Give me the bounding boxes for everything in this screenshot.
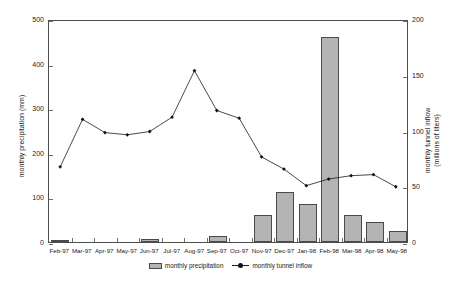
inflow-point-mar-98: [349, 174, 353, 178]
legend-item-precipitation: monthly precipitation: [149, 262, 224, 269]
x-tickmark: [229, 238, 230, 242]
x-tickmark: [72, 238, 73, 242]
inflow-point-may-97: [125, 133, 129, 137]
x-tickmark: [319, 238, 320, 242]
inflow-point-feb-98: [327, 177, 331, 181]
y-right-ticklabel-50: 50: [412, 183, 442, 190]
inflow-point-may-98: [394, 185, 398, 189]
inflow-point-feb-97: [58, 165, 62, 169]
y-right-tickmark: [403, 133, 407, 134]
x-tickmark: [297, 238, 298, 242]
y-right-ticklabel-150: 150: [412, 72, 442, 79]
y-left-tickmark: [49, 66, 53, 67]
inflow-point-apr-97: [103, 131, 107, 135]
y-axis-left-title: monthly precipitation (mm): [18, 76, 26, 196]
y-left-tickmark: [49, 244, 53, 245]
y-left-tickmark: [49, 110, 53, 111]
y-left-ticklabel-500: 500: [14, 16, 44, 23]
y-left-tickmark: [49, 155, 53, 156]
inflow-markers: [58, 69, 397, 189]
x-tickmark: [342, 238, 343, 242]
chart-figure: monthly precipitation (mm) monthly tunne…: [0, 0, 461, 284]
y-left-tickmark: [49, 199, 53, 200]
y-right-ticklabel-0: 0: [412, 239, 442, 246]
x-tickmark: [139, 238, 140, 242]
legend-item-inflow: monthly tunnel inflow: [232, 262, 312, 269]
plot-area: [48, 20, 408, 243]
bar-swatch-icon: [149, 263, 162, 269]
x-tickmark: [364, 238, 365, 242]
y-right-tickmark: [403, 188, 407, 189]
inflow-point-nov-97: [260, 155, 264, 159]
y-left-ticklabel-0: 0: [14, 239, 44, 246]
legend-label-precipitation: monthly precipitation: [165, 262, 224, 269]
y-right-ticklabel-100: 100: [412, 128, 442, 135]
x-tickmark: [117, 238, 118, 242]
x-tickmark: [387, 238, 388, 242]
inflow-point-aug-97: [193, 69, 197, 73]
y-right-tickmark: [403, 21, 407, 22]
x-tickmark: [162, 238, 163, 242]
y-left-ticklabel-200: 200: [14, 150, 44, 157]
y-right-tickmark: [403, 244, 407, 245]
x-tickmark: [94, 238, 95, 242]
inflow-point-sep-97: [215, 109, 219, 113]
x-tickmark: [252, 238, 253, 242]
x-tickmark: [184, 238, 185, 242]
line-marker-icon: [232, 262, 249, 269]
inflow-point-apr-98: [372, 173, 376, 177]
y-left-ticklabel-300: 300: [14, 105, 44, 112]
y-left-ticklabel-400: 400: [14, 61, 44, 68]
legend-label-inflow: monthly tunnel inflow: [252, 262, 312, 269]
inflow-point-mar-97: [81, 117, 85, 121]
x-ticklabel-may-98: May-98: [381, 247, 413, 254]
inflow-line: [60, 71, 396, 187]
inflow-point-oct-97: [237, 116, 241, 120]
y-right-ticklabel-200: 200: [412, 16, 442, 23]
y-left-tickmark: [49, 21, 53, 22]
y-left-ticklabel-100: 100: [14, 194, 44, 201]
x-tickmark: [207, 238, 208, 242]
x-tickmark: [274, 238, 275, 242]
y-right-tickmark: [403, 77, 407, 78]
chart-legend: monthly precipitation monthly tunnel inf…: [0, 262, 461, 269]
line-series-layer: [49, 21, 407, 242]
